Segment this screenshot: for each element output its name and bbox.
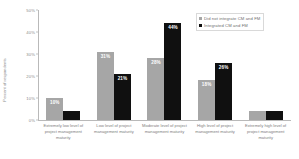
bar-value-label: 26% (219, 65, 229, 70)
bar: 26% (215, 63, 232, 120)
bar-group: 31%21% (89, 10, 140, 120)
bar: 10% (46, 98, 63, 120)
x-axis-category-label: Low level of project management maturity (89, 123, 140, 141)
x-axis-category-label: Extremely low level of project managemen… (38, 123, 89, 141)
bar-chart: Percent of respondents 50%40%30%20%10%0%… (0, 0, 299, 159)
bar: 31% (97, 52, 114, 120)
legend-label: Integrated CM and FM (204, 23, 248, 28)
bar-group: 28%44% (139, 10, 190, 120)
bar: 44% (164, 23, 181, 120)
bar: 18% (198, 80, 215, 120)
y-axis-title: Percent of respondents (2, 37, 7, 123)
bar-value-label: 21% (118, 76, 128, 81)
bar-group: 10%4% (38, 10, 89, 120)
x-axis-category-label: Extremely high level of project manageme… (240, 123, 291, 141)
legend-item: Did not integrate CM and FM (199, 16, 260, 21)
bar-value-label: 10% (50, 100, 60, 105)
x-axis-labels: Extremely low level of project managemen… (38, 123, 291, 141)
bar-value-label: 31% (101, 54, 111, 59)
bar: 4% (249, 111, 266, 120)
legend-label: Did not integrate CM and FM (204, 16, 260, 21)
x-axis-line (38, 120, 291, 121)
bar: 4% (266, 111, 283, 120)
bar: 28% (147, 58, 164, 120)
x-axis-category-label: Moderate level of project management mat… (139, 123, 190, 141)
legend-swatch-black (199, 24, 202, 27)
bar: 21% (114, 74, 131, 120)
legend-item: Integrated CM and FM (199, 23, 260, 28)
bar-value-label: 18% (202, 82, 212, 87)
x-axis-category-label: High level of project management maturit… (190, 123, 241, 141)
legend-swatch-gray (199, 17, 202, 20)
chart-legend: Did not integrate CM and FM Integrated C… (196, 13, 264, 31)
bar-value-label: 44% (168, 25, 178, 30)
bar-value-label: 28% (151, 60, 161, 65)
bar: 4% (63, 111, 80, 120)
